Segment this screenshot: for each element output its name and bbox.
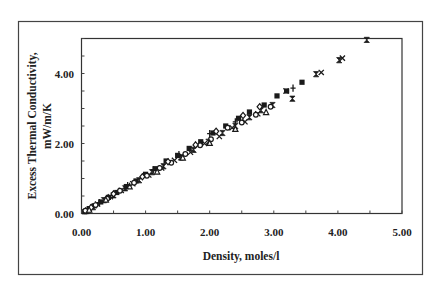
y-axis-tick-labels: 0.002.004.00	[55, 68, 75, 220]
bowtie-marker	[364, 37, 369, 42]
circle-open-marker	[118, 188, 123, 193]
square-filled-marker	[299, 80, 304, 85]
circle-open-marker	[254, 112, 259, 117]
bowtie-marker	[314, 72, 319, 77]
y-tick-label: 4.00	[55, 68, 75, 80]
circle-open-marker	[132, 180, 137, 185]
bowtie-marker	[247, 115, 252, 120]
plus-marker	[290, 85, 295, 92]
circle-open-marker	[225, 125, 230, 130]
bowtie-marker	[290, 96, 295, 101]
square-filled-marker	[274, 93, 279, 98]
x-tick-label: 5.00	[392, 226, 412, 238]
x-tick-label: 3.00	[264, 226, 284, 238]
scatter-chart: 0.002.004.00 0.001.002.003.004.005.00 De…	[0, 0, 441, 291]
y-tick-label: 0.00	[55, 208, 75, 220]
x-tick-label: 4.00	[328, 226, 348, 238]
y-axis-title: Excess Thermal Conductivity, mW/m/K	[26, 52, 53, 199]
x-tick-label: 1.00	[136, 226, 156, 238]
y-axis-title-line-1: Excess Thermal Conductivity,	[26, 52, 39, 199]
x-axis-title: Density, moles/l	[203, 250, 280, 263]
data-points	[82, 37, 369, 214]
circle-open-marker	[268, 104, 273, 109]
diamond-open-marker	[240, 112, 245, 118]
circle-open-marker	[239, 120, 244, 125]
y-tick-label: 2.00	[55, 138, 75, 150]
x-marker	[217, 134, 222, 139]
circle-open-marker	[93, 203, 98, 208]
x-marker	[319, 70, 324, 75]
y-axis-title-line-2: mW/m/K	[41, 103, 53, 149]
x-tick-label: 0.00	[72, 226, 92, 238]
x-tick-label: 2.00	[200, 226, 220, 238]
triangle-open-marker	[264, 109, 269, 114]
x-axis-tick-labels: 0.001.002.003.004.005.00	[72, 226, 412, 238]
square-filled-marker	[247, 109, 252, 114]
